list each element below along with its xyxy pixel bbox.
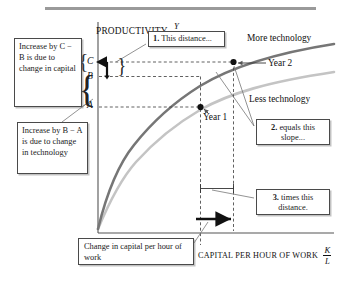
callout-step-1-text: This distance...	[161, 34, 212, 43]
gap-arrow-c-b-tail	[104, 76, 109, 80]
curve-label-less-technology: Less technology	[249, 94, 310, 104]
y-axis-ratio-numerator: Y	[173, 22, 180, 31]
callout-change-in-capital: Change in capital per hour of work	[78, 238, 194, 265]
x-axis-label-text: Capital per hour of work	[198, 251, 318, 260]
brace-gap-right-icon: }	[117, 55, 126, 75]
callout-step-2-text: equals this slope...	[279, 123, 315, 143]
x-axis-ratio-numerator: K	[323, 246, 331, 255]
leader-distance-3	[212, 190, 254, 198]
callout-increase-capital-text: Increase by C − B is due to change in ca…	[19, 42, 76, 73]
callout-step-2-number: 2.	[271, 123, 277, 132]
callout-step-3-text: times this distance.	[278, 193, 313, 213]
callout-step-3-number: 3.	[273, 193, 279, 202]
callout-step-1-number: 1.	[153, 34, 159, 43]
point-year-1	[197, 104, 203, 110]
x-axis-ratio-denominator: L	[323, 257, 331, 266]
curve-label-more-technology: More technology	[247, 33, 311, 43]
x-axis-label: Capital per hour of work K L	[198, 247, 331, 266]
callout-increase-capital: Increase by C − B is due to change in ca…	[14, 38, 82, 107]
point-year-2	[230, 59, 236, 65]
point-label-year-1: Year 1	[203, 112, 227, 122]
callout-change-in-capital-text: Change in capital per hour of work	[84, 242, 182, 262]
callout-increase-technology: Increase by B − A is due to change in te…	[17, 122, 88, 174]
callout-step-3-distance: 3. times this distance.	[256, 189, 330, 215]
point-label-year-2: Year 2	[268, 58, 292, 68]
figure-canvas: Productivity Y L Capital per hour of wor…	[0, 0, 340, 285]
callout-increase-technology-text: Increase by B − A is due to change in te…	[22, 126, 82, 157]
callout-step-1-distance: 1. This distance...	[148, 31, 225, 47]
callout-step-2-slope: 2. equals this slope...	[256, 119, 330, 145]
x-axis-ratio: K L	[323, 246, 331, 265]
